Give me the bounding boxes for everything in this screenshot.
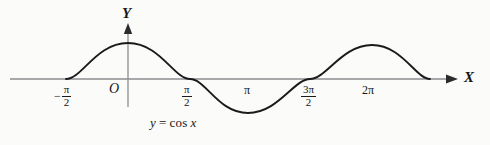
x-axis-label: X <box>464 70 474 85</box>
cosine-curve <box>66 43 430 113</box>
equation-function-name: cos <box>170 115 188 130</box>
fraction-numerator: 3π <box>301 84 316 97</box>
plot-canvas <box>0 0 490 145</box>
fraction-numerator: π <box>182 84 192 97</box>
tick-label-three-pi-over-2: 3π 2 <box>301 84 316 108</box>
fraction-denominator: 2 <box>304 97 314 109</box>
tick-label-neg-pi-over-2: − π 2 <box>54 84 71 108</box>
minus-sign: − <box>54 90 61 102</box>
fraction-denominator: 2 <box>182 97 192 109</box>
equation-argument: x <box>190 115 196 130</box>
fraction-pi-over-2: π 2 <box>62 84 72 108</box>
y-axis-label: Y <box>122 6 131 21</box>
tick-label-pi-over-2: π 2 <box>182 84 192 108</box>
fraction-denominator: 2 <box>62 97 72 109</box>
neg-pi-over-2-group: − π 2 <box>54 84 71 108</box>
fraction-pi-over-2: π 2 <box>182 84 192 108</box>
fraction-numerator: π <box>62 84 72 97</box>
tick-label-pi: π <box>244 84 250 96</box>
fraction-three-pi-over-2: 3π 2 <box>301 84 316 108</box>
x-axis-arrowhead <box>446 75 458 84</box>
cosine-graph-figure: Y X O − π 2 π 2 π 3π 2 2π y=cosx <box>0 0 490 145</box>
y-axis <box>124 23 132 107</box>
origin-label: O <box>109 82 119 96</box>
tick-label-two-pi: 2π <box>362 84 374 96</box>
equation-annotation: y=cosx <box>150 116 196 129</box>
equation-lhs: y <box>150 115 156 130</box>
y-axis-arrowhead <box>124 23 132 34</box>
x-axis <box>10 75 458 84</box>
equation-operator: = <box>159 115 167 130</box>
